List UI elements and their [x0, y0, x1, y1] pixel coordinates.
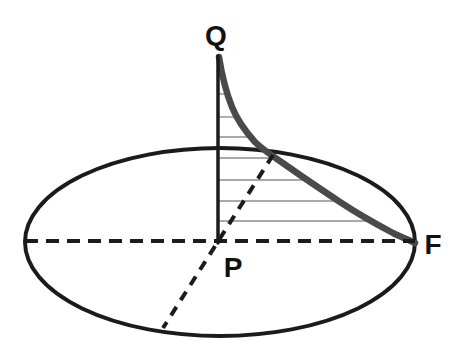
geometry-diagram: Q P F	[0, 0, 461, 353]
label-q: Q	[205, 20, 227, 51]
label-p: P	[224, 252, 243, 283]
label-f: F	[424, 229, 441, 260]
diagram-svg: Q P F	[0, 0, 461, 353]
